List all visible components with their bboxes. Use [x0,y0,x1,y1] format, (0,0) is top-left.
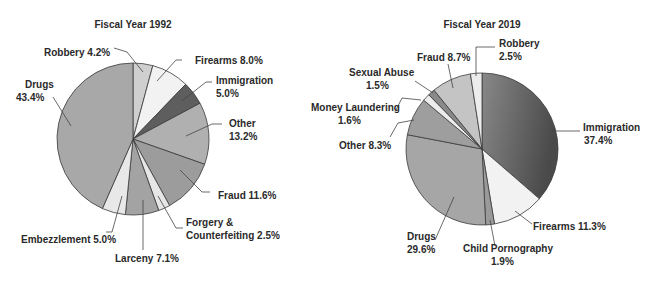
label-forgery-1992-line1: Forgery & [186,217,233,228]
slice-drugs [406,135,486,225]
label-child-pornography-2019-line2: 1.9% [491,256,514,267]
label-firearms-1992: Firearms 8.0% [195,55,263,66]
label-immigration-1992-line2: 5.0% [216,88,239,99]
label-sexual-abuse-2019-line2: 1.5% [366,80,389,91]
label-drugs-1992-line1: Drugs [25,79,54,90]
label-immigration-1992-line1: Immigration [216,75,273,86]
label-robbery-1992: Robbery 4.2% [44,47,110,58]
label-child-pornography-2019-line1: Child Pornography [463,243,553,254]
pie-chart-2019 [406,73,558,225]
label-other-1992-line2: 13.2% [229,131,257,142]
pie-chart-1992 [57,63,209,215]
label-drugs-1992-line2: 43.4% [16,92,44,103]
label-fraud-2019: Fraud 8.7% [417,52,470,63]
chart-title-2019: Fiscal Year 2019 [443,19,521,30]
label-money-laundering-2019-line2: 1.6% [338,115,361,126]
chart-title-1992: Fiscal Year 1992 [94,19,172,30]
label-immigration-2019-line2: 37.4% [584,135,612,146]
label-robbery-2019-line1: Robbery [499,38,540,49]
label-forgery-1992-line2: Counterfeiting 2.5% [186,230,280,241]
label-robbery-2019-line2: 2.5% [499,51,522,62]
label-larceny-1992: Larceny 7.1% [115,253,179,264]
leader-robbery-2019 [476,47,495,76]
label-drugs-2019-line1: Drugs [407,231,436,242]
pie-charts-figure: Fiscal Year 1992 Robbery 4.2% Firearms 8… [0,0,647,282]
label-embezzlement-1992: Embezzlement 5.0% [21,234,116,245]
label-fraud-1992: Fraud 11.6% [218,190,276,201]
label-sexual-abuse-2019-line1: Sexual Abuse [349,67,415,78]
label-drugs-2019-line2: 29.6% [407,244,435,255]
label-immigration-2019-line1: Immigration [583,122,640,133]
label-firearms-2019: Firearms 11.3% [533,221,606,232]
label-other-1992-line1: Other [229,118,256,129]
label-money-laundering-2019-line1: Money Laundering [311,102,400,113]
label-other-2019: Other 8.3% [339,140,391,151]
leader-sexual-abuse-2019 [415,81,433,93]
